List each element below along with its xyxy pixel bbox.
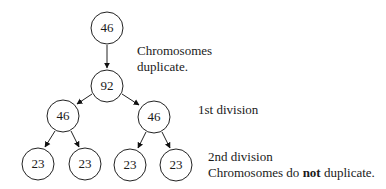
duplicate-line1: Chromosomes (137, 43, 212, 59)
node-duplicated-cell: 92 (90, 69, 124, 103)
node-gamete-2: 23 (68, 147, 102, 181)
note-text-pre: Chromosomes do (208, 165, 303, 180)
duplicate-line2: duplicate. (137, 59, 212, 75)
first-division-label: 1st division (198, 102, 258, 118)
node-first-division-right: 46 (137, 100, 171, 134)
node-gamete-1: 23 (21, 147, 55, 181)
node-gamete-4: 23 (159, 148, 193, 182)
node-gamete-3: 23 (113, 148, 147, 182)
note-text-post: duplicate. (321, 165, 375, 180)
duplicate-annotation: Chromosomes duplicate. (137, 43, 212, 75)
second-division-annotation: 2nd division Chromosomes do not duplicat… (208, 149, 375, 181)
node-first-division-left: 46 (46, 99, 80, 133)
second-division-label: 2nd division (208, 149, 375, 165)
note-text-emphasis: not (303, 165, 321, 180)
second-division-note: Chromosomes do not duplicate. (208, 165, 375, 181)
node-parent-cell: 46 (90, 11, 124, 45)
